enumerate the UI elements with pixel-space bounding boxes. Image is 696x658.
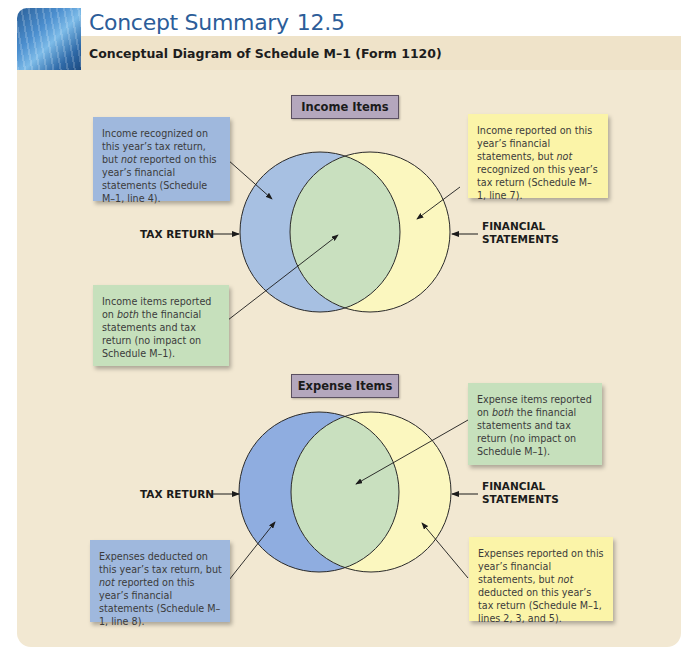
- income-financial-statements-label: FINANCIAL STATEMENTS: [482, 220, 559, 246]
- expense-financial-statements-label: FINANCIAL STATEMENTS: [482, 480, 559, 506]
- note-emphasis: both: [117, 309, 139, 320]
- note-text: Income reported on this year’s financial…: [477, 125, 592, 162]
- label-line: STATEMENTS: [482, 493, 559, 506]
- expense-financial-only-note: Expenses reported on this year’s financi…: [469, 537, 613, 621]
- income-tax-return-label: TAX RETURN: [140, 228, 214, 241]
- income-tax-only-note: Income recognized on this year’s tax ret…: [93, 117, 230, 201]
- expense-venn: [209, 412, 478, 580]
- note-text: recognized on this year’s tax return (Sc…: [477, 164, 598, 201]
- note-emphasis: both: [492, 407, 514, 418]
- income-venn: [209, 152, 478, 320]
- expense-tax-return-label: TAX RETURN: [140, 488, 214, 501]
- income-financial-only-note: Income reported on this year’s financial…: [468, 114, 608, 198]
- note-text: deducted on this year’s tax return (Sche…: [478, 587, 602, 624]
- income-items-label: Income Items: [291, 95, 399, 119]
- label-line: STATEMENTS: [482, 233, 559, 246]
- note-emphasis: not: [121, 154, 137, 165]
- note-text: reported on this year’s financial statem…: [99, 577, 220, 627]
- income-both-note: Income items reported on both the financ…: [93, 285, 229, 366]
- expense-both-note: Expense items reported on both the finan…: [468, 383, 602, 465]
- note-emphasis: not: [557, 574, 573, 585]
- note-emphasis: not: [99, 577, 115, 588]
- expense-items-label: Expense Items: [291, 374, 399, 398]
- note-text: Expenses reported on this year’s financi…: [478, 548, 604, 585]
- expense-tax-only-note: Expenses deducted on this year’s tax ret…: [90, 540, 230, 622]
- note-emphasis: not: [556, 151, 572, 162]
- label-line: FINANCIAL: [482, 220, 559, 233]
- label-line: FINANCIAL: [482, 480, 559, 493]
- note-text: Expenses deducted on this year’s tax ret…: [99, 551, 222, 575]
